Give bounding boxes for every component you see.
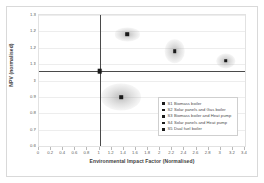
- legend-swatch-icon: [162, 128, 165, 131]
- data-point-marker: [120, 95, 124, 99]
- x-axis-tick-mark: [183, 147, 184, 150]
- y-axis-title: NPV (normalised): [8, 35, 14, 95]
- legend-item[interactable]: S5 Dual fuel boiler: [162, 126, 235, 132]
- x-axis-tick-mark: [62, 147, 63, 150]
- x-axis-tick-labels: 00.20.40.60.811.21.41.61.822.22.42.62.83…: [38, 147, 246, 157]
- x-axis-tick-mark: [171, 147, 172, 150]
- x-axis-tick-label: 2.6: [193, 150, 199, 155]
- data-point-marker: [126, 33, 130, 37]
- legend-swatch-icon: [162, 109, 165, 112]
- x-axis-tick-label: 0.2: [47, 150, 53, 155]
- y-axis-tick-labels: 1.31.21.21.110.90.80.70.6: [18, 14, 36, 147]
- gridline: [39, 15, 245, 16]
- y-axis-tick-mark: [34, 14, 37, 15]
- x-axis-tick-mark: [159, 147, 160, 150]
- x-axis-tick-label: 2.8: [205, 150, 211, 155]
- x-axis-tick-mark: [244, 147, 245, 150]
- x-axis-tick-label: 2.4: [180, 150, 186, 155]
- data-point-marker: [97, 69, 102, 74]
- x-axis-tick-label: 0.4: [59, 150, 65, 155]
- x-axis-tick-label: 3.4: [241, 150, 247, 155]
- x-axis-tick-label: 0: [37, 150, 39, 155]
- x-axis-tick-mark: [147, 147, 148, 150]
- gridline: [39, 81, 245, 82]
- x-axis-tick-mark: [208, 147, 209, 150]
- x-axis-tick-label: 3: [219, 150, 221, 155]
- gridline: [39, 48, 245, 49]
- x-axis-tick-mark: [74, 147, 75, 150]
- x-axis-tick-label: 0.8: [84, 150, 90, 155]
- reference-line-vertical: [100, 15, 101, 146]
- y-axis-tick-mark: [34, 95, 37, 96]
- x-axis-tick-label: 1.8: [144, 150, 150, 155]
- x-axis-tick-label: 1.2: [108, 150, 114, 155]
- y-axis-tick-mark: [34, 30, 37, 31]
- x-axis-tick-mark: [111, 147, 112, 150]
- x-axis-tick-mark: [50, 147, 51, 150]
- legend-swatch-icon: [162, 115, 165, 118]
- x-axis-tick-mark: [123, 147, 124, 150]
- reference-line-horizontal: [39, 71, 245, 72]
- y-axis-tick-mark: [34, 112, 37, 113]
- y-axis-tick-mark: [34, 79, 37, 80]
- gridline: [39, 31, 245, 32]
- x-axis-tick-label: 1.6: [132, 150, 138, 155]
- chart-legend: S1 Biomass boilerS2 Solar panels and Gas…: [158, 97, 238, 136]
- y-axis-tick-mark: [34, 145, 37, 146]
- y-axis-tick-mark: [34, 63, 37, 64]
- y-axis-tick-mark: [34, 128, 37, 129]
- x-axis-tick-label: 2: [158, 150, 160, 155]
- x-axis-tick-mark: [220, 147, 221, 150]
- x-axis-tick-mark: [196, 147, 197, 150]
- x-axis-tick-mark: [135, 147, 136, 150]
- x-axis-tick-mark: [232, 147, 233, 150]
- legend-item-label: S5 Dual fuel boiler: [168, 126, 202, 132]
- x-axis-tick-label: 0.6: [71, 150, 77, 155]
- x-axis-tick-label: 1.4: [120, 150, 126, 155]
- legend-swatch-icon: [162, 102, 165, 105]
- x-axis-tick-mark: [86, 147, 87, 150]
- x-axis-title: Environmental Impact Factor (Normalised): [38, 158, 246, 164]
- data-point-marker: [173, 50, 177, 54]
- gridline: [39, 64, 245, 65]
- y-axis-tick-mark: [34, 46, 37, 47]
- x-axis-tick-label: 1: [97, 150, 99, 155]
- x-axis-tick-label: 2.2: [168, 150, 174, 155]
- x-axis-tick-mark: [38, 147, 39, 150]
- x-axis-tick-label: 3.2: [229, 150, 235, 155]
- chart-figure: 1.31.21.21.110.90.80.70.6 00.20.40.60.81…: [0, 0, 264, 183]
- data-point-marker: [224, 59, 228, 63]
- legend-swatch-icon: [162, 122, 165, 125]
- x-axis-tick-mark: [99, 147, 100, 150]
